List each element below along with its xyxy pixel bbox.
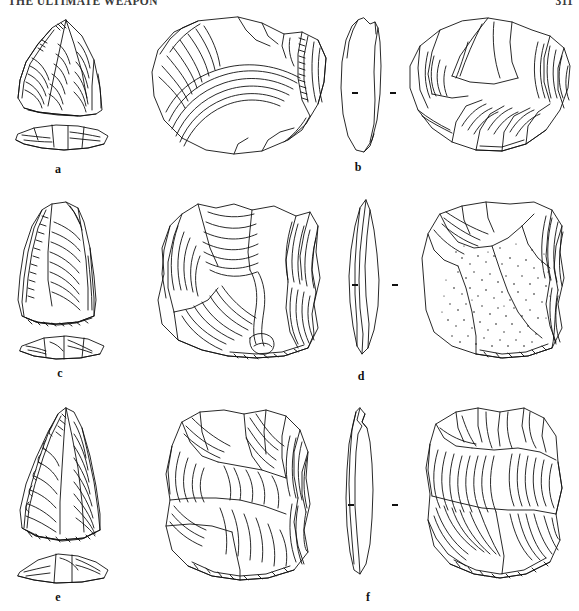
- alignment-tick-left-d: [352, 284, 358, 286]
- alignment-tick-left-f: [348, 504, 354, 506]
- alignment-tick-right-d: [392, 284, 398, 286]
- caption-f: f: [358, 590, 378, 605]
- caption-a: a: [48, 162, 68, 177]
- alignment-tick-right-f: [392, 504, 398, 506]
- figure-plate: THE ULTIMATE WEAPON 311: [0, 0, 579, 611]
- running-header: THE ULTIMATE WEAPON 311: [0, 0, 579, 9]
- caption-d: d: [351, 369, 371, 384]
- caption-e: e: [48, 590, 68, 605]
- page-number: 311: [555, 0, 573, 7]
- artifact-f-cross-section: [332, 402, 392, 588]
- artifact-f-dorsal-face: [400, 402, 576, 588]
- running-header-title: THE ULTIMATE WEAPON: [8, 0, 158, 7]
- artifact-d-dorsal-face: [400, 196, 574, 364]
- artifact-a-scaled-views: [8, 14, 128, 159]
- artifact-f-ventral-face: [140, 402, 332, 588]
- artifact-d-ventral-face: [138, 196, 336, 364]
- artifact-b-cross-section: [334, 12, 392, 162]
- caption-c: c: [50, 366, 70, 381]
- artifact-b-dorsal-face: [398, 12, 576, 162]
- artifact-c-scaled-views: [8, 196, 128, 364]
- artifact-e-scaled-views: [8, 402, 128, 588]
- artifact-d-cross-section: [336, 196, 394, 364]
- caption-b: b: [348, 160, 368, 175]
- alignment-tick-right-b: [390, 92, 396, 94]
- artifact-b-ventral-face: [142, 12, 334, 162]
- alignment-tick-left-b: [352, 92, 358, 94]
